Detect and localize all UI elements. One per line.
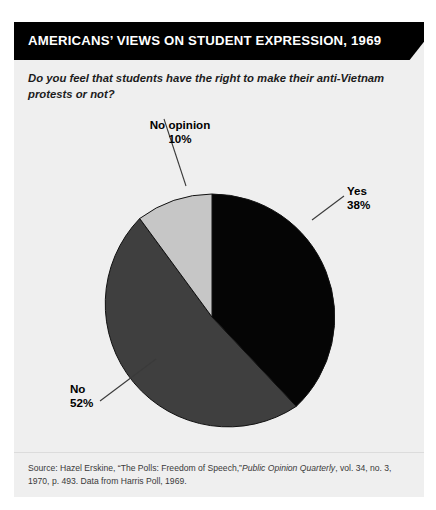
pie-label-no: No 52% bbox=[70, 382, 93, 409]
pie-label-no-opinion-name: No opinion bbox=[150, 118, 211, 131]
source-prefix: Source: Hazel Erskine, “The Polls: Freed… bbox=[28, 463, 242, 473]
pie-label-yes-value: 38% bbox=[347, 198, 370, 212]
source-note: Source: Hazel Erskine, “The Polls: Freed… bbox=[28, 462, 413, 487]
page-title: AMERICANS’ VIEWS ON STUDENT EXPRESSION, … bbox=[28, 33, 381, 48]
source-journal: Public Opinion Quarterly bbox=[242, 463, 335, 473]
pie-label-yes-name: Yes bbox=[347, 184, 367, 197]
leader-line-yes bbox=[312, 196, 344, 220]
figure-card: AMERICANS’ VIEWS ON STUDENT EXPRESSION, … bbox=[14, 22, 424, 497]
pie-chart: No opinion 10% Yes 38% No 52% bbox=[14, 110, 424, 440]
pie-label-no-opinion: No opinion 10% bbox=[118, 118, 242, 145]
pie-label-yes: Yes 38% bbox=[347, 184, 370, 211]
survey-question: Do you feel that students have the right… bbox=[28, 70, 410, 103]
pie-label-no-opinion-value: 10% bbox=[118, 132, 242, 146]
pie-label-no-name: No bbox=[70, 382, 85, 395]
pie-label-no-value: 52% bbox=[70, 396, 93, 410]
source-divider bbox=[14, 452, 424, 453]
